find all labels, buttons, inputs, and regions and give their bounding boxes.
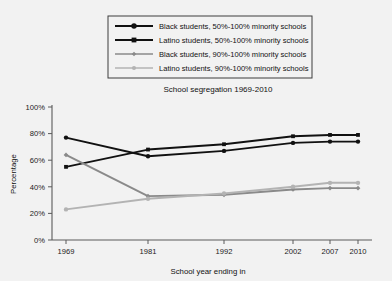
- data-point-marker: [132, 66, 136, 70]
- x-axis-tick-label: 2010: [350, 247, 367, 256]
- x-axis-tick-label: 1969: [58, 247, 75, 256]
- data-point-marker: [328, 139, 332, 143]
- y-axis-tick-label: 60%: [30, 156, 45, 165]
- data-point-marker: [222, 142, 226, 146]
- y-axis-tick-label: 40%: [30, 183, 45, 192]
- data-point-marker: [356, 139, 360, 143]
- school-segregation-line-chart: Black students, 50%-100% minority school…: [0, 0, 392, 281]
- x-axis-tick-label: 2002: [285, 247, 302, 256]
- x-axis-tick-label: 1981: [140, 247, 157, 256]
- legend-item-label: Black students, 90%-100% minority school…: [159, 50, 307, 59]
- data-point-marker: [64, 135, 68, 139]
- data-point-marker: [64, 207, 68, 211]
- data-point-marker: [291, 185, 295, 189]
- y-axis-tick-label: 80%: [30, 129, 45, 138]
- data-point-marker: [356, 181, 360, 185]
- data-point-marker: [146, 197, 150, 201]
- data-point-marker: [64, 165, 68, 169]
- y-axis-tick-label: 20%: [30, 209, 45, 218]
- chart-legend: Black students, 50%-100% minority school…: [108, 16, 312, 78]
- data-point-marker: [328, 133, 332, 137]
- x-axis-tick-label: 2007: [322, 247, 339, 256]
- y-axis-tick-label: 0%: [34, 236, 45, 245]
- chart-title: School segregation 1969-2010: [164, 85, 274, 94]
- data-point-marker: [222, 149, 226, 153]
- data-point-marker: [222, 191, 226, 195]
- legend-item-label: Black students, 50%-100% minority school…: [159, 22, 307, 31]
- y-axis-tick-label: 100%: [26, 103, 46, 112]
- legend-item-label: Latino students, 90%-100% minority schoo…: [159, 64, 309, 73]
- data-point-marker: [131, 23, 137, 29]
- legend-item-label: Latino students, 50%-100% minority schoo…: [159, 36, 309, 45]
- data-point-marker: [146, 148, 150, 152]
- y-axis-title: Percentage: [9, 154, 18, 194]
- data-point-marker: [328, 181, 332, 185]
- x-axis-title: School year ending in: [171, 267, 246, 276]
- data-point-marker: [356, 133, 360, 137]
- data-point-marker: [291, 141, 295, 145]
- data-point-marker: [146, 154, 150, 158]
- chart-container: Black students, 50%-100% minority school…: [0, 0, 392, 281]
- data-point-marker: [291, 134, 295, 138]
- data-point-marker: [132, 38, 137, 43]
- x-axis-tick-label: 1992: [216, 247, 233, 256]
